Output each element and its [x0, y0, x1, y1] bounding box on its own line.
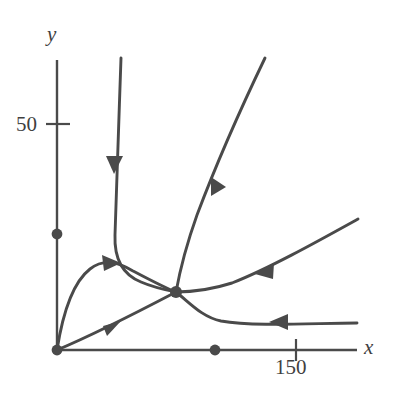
- trajectory-outgoing-horizontal: [176, 292, 357, 324]
- phase-plane-plot: [0, 0, 395, 409]
- arrow-left-horizontal-icon: [269, 314, 288, 330]
- equilibrium-dot-y-axis: [52, 229, 63, 240]
- trajectory-outgoing-line-from-origin: [57, 292, 176, 350]
- equilibrium-dot-origin: [52, 345, 63, 356]
- equilibrium-dot-interior-saddle: [170, 286, 182, 298]
- x-axis-tick-label-150: 150: [275, 355, 307, 380]
- phase-plane-figure: y x 50 150: [0, 0, 395, 409]
- trajectory-incoming-vertical: [115, 58, 176, 292]
- y-axis-tick-label-50: 50: [16, 112, 37, 137]
- equilibrium-dot-x-axis: [210, 345, 221, 356]
- arrow-down-vertical-icon: [106, 156, 123, 174]
- trajectory-incoming-shallow-diagonal: [176, 219, 358, 292]
- trajectories-group: [57, 58, 358, 350]
- trajectory-outgoing-arc-from-origin: [57, 262, 176, 350]
- x-axis-label: x: [364, 335, 373, 360]
- trajectory-incoming-steep-diagonal: [176, 58, 265, 292]
- arrow-downleft-steep-icon: [211, 177, 226, 196]
- axes-group: [46, 60, 357, 361]
- y-axis-label: y: [47, 22, 56, 47]
